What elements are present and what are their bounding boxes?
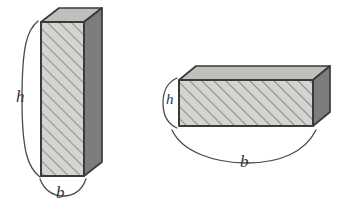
tall-prism-side-face (84, 8, 102, 176)
tall-prism-base-label: b (56, 184, 65, 201)
flat-prism-base-label: b (240, 153, 249, 170)
tall-prism-front-face (41, 22, 84, 176)
flat-prism-group (163, 66, 330, 163)
flat-prism-height-label: h (166, 92, 174, 107)
prism-diagram-svg (0, 0, 355, 213)
flat-prism-front-face (179, 80, 313, 126)
tall-prism-height-brace (22, 21, 40, 177)
geometry-figure: h b h b (0, 0, 355, 213)
flat-prism-top-face (179, 66, 330, 80)
tall-prism-group (22, 8, 102, 196)
tall-prism-height-label: h (16, 88, 25, 105)
